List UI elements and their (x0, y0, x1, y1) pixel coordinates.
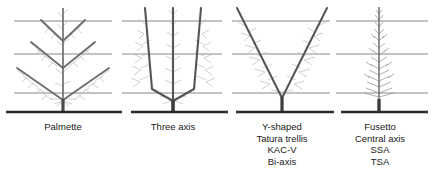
training-systems-diagram (0, 0, 432, 183)
diagram-background (0, 0, 432, 183)
